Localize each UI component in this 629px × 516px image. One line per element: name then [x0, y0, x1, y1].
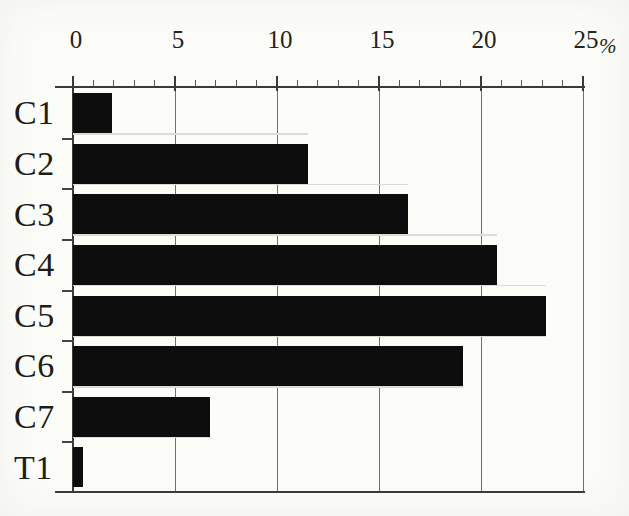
x-major-tick-25: [582, 76, 584, 91]
category-label-C4: C4: [14, 240, 66, 291]
gridline-20: [481, 87, 482, 491]
bar-C3: [73, 194, 408, 234]
x-minor-tick-11: [297, 80, 298, 87]
bar-C2: [73, 144, 308, 184]
scan-stripe: [73, 386, 463, 388]
x-minor-tick-12: [317, 80, 318, 87]
x-minor-tick-17: [419, 80, 420, 87]
x-minor-tick-14: [358, 80, 359, 87]
category-label-C1: C1: [14, 88, 66, 139]
scan-stripe: [73, 234, 497, 236]
category-label-C3: C3: [14, 189, 66, 240]
x-major-tick-10: [276, 76, 278, 91]
gridline-15: [379, 87, 380, 491]
x-minor-tick-24: [562, 80, 563, 87]
category-label-C2: C2: [14, 139, 66, 190]
category-label-T1: T1: [14, 442, 66, 493]
x-major-tick-0: [72, 76, 74, 91]
x-major-tick-5: [174, 76, 176, 91]
x-minor-tick-21: [501, 80, 502, 87]
x-minor-tick-22: [521, 80, 522, 87]
bar-C5: [73, 296, 546, 336]
x-major-tick-20: [480, 76, 482, 91]
x-major-tick-15: [378, 76, 380, 91]
x-minor-tick-8: [236, 80, 237, 87]
x-tick-label-5: 5: [156, 27, 200, 52]
x-tick-label-10: 10: [258, 27, 302, 52]
bar-T1: [73, 447, 83, 487]
x-minor-tick-9: [256, 80, 257, 87]
scan-stripe: [73, 437, 210, 439]
bar-C4: [73, 245, 497, 285]
bar-C6: [73, 346, 463, 386]
bar-C7: [73, 397, 210, 437]
gridline-25: [583, 87, 584, 491]
category-label-C5: C5: [14, 291, 66, 342]
x-tick-label-0: 0: [54, 27, 98, 52]
x-minor-tick-18: [440, 80, 441, 87]
scan-stripe: [73, 336, 546, 338]
x-axis-unit-label: %: [599, 36, 617, 57]
x-minor-tick-2: [113, 80, 114, 87]
x-minor-tick-16: [399, 80, 400, 87]
x-minor-tick-13: [338, 80, 339, 87]
x-axis-line-bottom: [55, 491, 585, 493]
scan-stripe: [73, 133, 308, 135]
x-minor-tick-1: [93, 80, 94, 87]
x-minor-tick-4: [154, 80, 155, 87]
x-minor-tick-3: [134, 80, 135, 87]
category-label-C7: C7: [14, 392, 66, 443]
scan-stripe: [73, 285, 546, 287]
category-label-C6: C6: [14, 341, 66, 392]
x-tick-label-15: 15: [360, 27, 404, 52]
bar-C1: [73, 93, 112, 133]
scan-stripe: [73, 184, 408, 186]
x-minor-tick-6: [195, 80, 196, 87]
scanned-bar-chart-figure: 0510152025C1C2C3C4C5C6C7T1 %: [0, 0, 629, 516]
x-minor-tick-7: [215, 80, 216, 87]
x-minor-tick-19: [460, 80, 461, 87]
x-minor-tick-23: [542, 80, 543, 87]
x-tick-label-20: 20: [462, 27, 506, 52]
